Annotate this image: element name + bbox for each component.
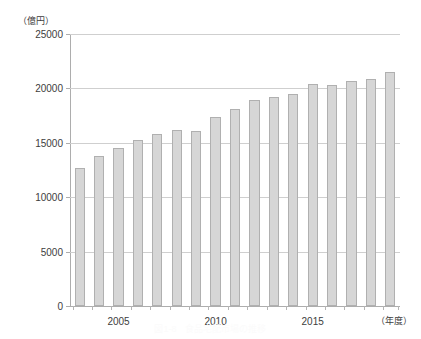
x-tick-mark [267, 306, 268, 310]
x-tick-mark [150, 306, 151, 310]
bar [346, 81, 356, 306]
bar [385, 72, 395, 306]
x-tick-mark [306, 306, 307, 310]
bar [152, 134, 162, 306]
x-tick-mark [111, 306, 112, 310]
bar [191, 131, 201, 306]
y-tick-mark [66, 252, 70, 253]
bar [366, 79, 376, 306]
y-tick-mark [66, 143, 70, 144]
bar [94, 156, 104, 306]
x-tick-mark [344, 306, 345, 310]
bar [230, 109, 240, 306]
x-tick-mark [73, 306, 74, 310]
y-tick-label: 20000 [35, 83, 63, 94]
x-tick-mark [398, 306, 399, 310]
chart-figure: （億円） （年度） 0500010000150002000025000 2005… [0, 0, 421, 339]
y-tick-mark [66, 34, 70, 35]
y-tick-label: 5000 [41, 246, 63, 257]
y-tick-label: 10000 [35, 192, 63, 203]
y-axis-line [70, 34, 71, 306]
x-tick-mark [170, 306, 171, 310]
x-tick-mark [383, 306, 384, 310]
bar [172, 130, 182, 306]
x-tick-mark [228, 306, 229, 310]
y-tick-mark [66, 88, 70, 89]
x-tick-mark [364, 306, 365, 310]
bar [327, 85, 337, 306]
bar [113, 148, 123, 306]
x-tick-mark [208, 306, 209, 310]
y-tick-mark [66, 306, 70, 307]
x-axis-unit-label: （年度） [376, 314, 412, 327]
x-tick-mark [92, 306, 93, 310]
x-tick-mark [247, 306, 248, 310]
bar [210, 117, 220, 306]
x-tick-label: 2005 [107, 316, 129, 327]
bar [75, 168, 85, 306]
x-tick-mark [286, 306, 287, 310]
gridline [70, 34, 400, 35]
x-tick-label: 2010 [204, 316, 226, 327]
x-tick-mark [189, 306, 190, 310]
bar [133, 140, 143, 306]
y-tick-label: 15000 [35, 137, 63, 148]
y-tick-label: 25000 [35, 29, 63, 40]
bar [269, 97, 279, 306]
x-tick-mark [131, 306, 132, 310]
bar [288, 94, 298, 306]
x-tick-mark [325, 306, 326, 310]
x-tick-label: 2015 [302, 316, 324, 327]
y-tick-mark [66, 197, 70, 198]
bar [308, 84, 318, 306]
bar [249, 100, 259, 306]
y-axis-unit-label: （億円） [18, 14, 54, 27]
x-axis-line [70, 306, 400, 307]
plot-area: 0500010000150002000025000 200520102015 [70, 34, 400, 306]
y-tick-label: 0 [57, 301, 63, 312]
